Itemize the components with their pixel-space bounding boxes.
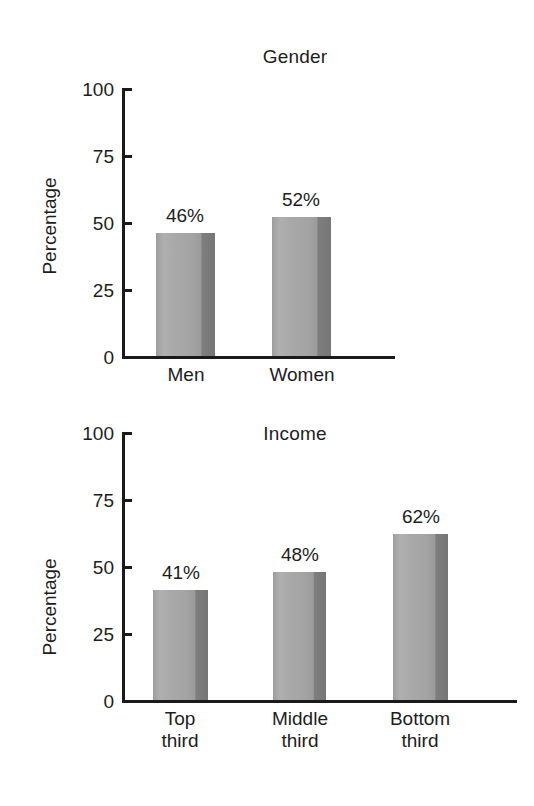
chart-income: Income Percentage 100 75 50 25 0 41% 48%… — [0, 400, 534, 806]
bar-middle-third — [273, 572, 326, 700]
x-axis-line-income — [122, 700, 517, 703]
y-tick-label-0-gender: 0 — [42, 347, 114, 369]
y-tick-25-gender — [122, 289, 132, 292]
bar-men — [156, 233, 215, 356]
bar-value-women: 52% — [251, 189, 351, 211]
y-tick-label-25-gender: 25 — [42, 280, 114, 302]
bar-top-third — [153, 590, 208, 700]
category-label-middle-third: Middle third — [240, 708, 360, 752]
y-tick-label-50-gender: 50 — [42, 213, 114, 235]
category-label-bottom-third: Bottom third — [360, 708, 480, 752]
chart-title-gender: Gender — [195, 46, 395, 68]
bar-value-top-third: 41% — [131, 562, 231, 584]
chart-title-income: Income — [195, 423, 395, 445]
bar-women — [272, 217, 331, 356]
y-tick-label-0-income: 0 — [42, 691, 114, 713]
y-tick-75-gender — [122, 155, 132, 158]
bar-value-men: 46% — [135, 205, 235, 227]
bar-bottom-third — [393, 534, 448, 700]
bar-value-bottom-third: 62% — [371, 506, 471, 528]
category-label-men: Men — [126, 364, 246, 386]
category-label-women: Women — [242, 364, 362, 386]
y-tick-label-50-income: 50 — [42, 557, 114, 579]
y-tick-50-gender — [122, 222, 132, 225]
chart-gender: Gender Percentage 100 75 50 25 0 46% 52%… — [0, 0, 534, 400]
y-axis-label-income: Percentage — [39, 532, 61, 682]
x-axis-line-gender — [122, 356, 395, 359]
y-tick-label-75-income: 75 — [42, 490, 114, 512]
y-tick-label-100-gender: 100 — [42, 79, 114, 101]
bar-value-middle-third: 48% — [250, 544, 350, 566]
y-tick-25-income — [122, 633, 132, 636]
category-label-top-third: Top third — [120, 708, 240, 752]
y-tick-label-75-gender: 75 — [42, 146, 114, 168]
y-tick-label-100-income: 100 — [42, 423, 114, 445]
y-tick-100-gender — [122, 88, 132, 91]
y-tick-label-25-income: 25 — [42, 624, 114, 646]
y-tick-75-income — [122, 499, 132, 502]
y-tick-100-income — [122, 432, 132, 435]
